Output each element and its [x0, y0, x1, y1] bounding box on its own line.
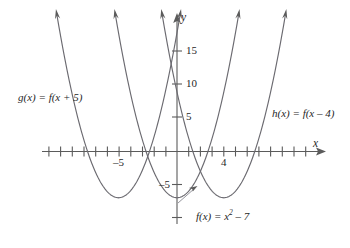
x-axis	[42, 147, 326, 157]
f-label-suffix: – 7	[233, 210, 250, 222]
graph-figure: –5 4 15 10 5 –5 x y g(x) = f(x + 5) h(x)…	[0, 0, 350, 248]
f-label-prefix: f(x) = x	[196, 210, 229, 222]
h-function-label: h(x) = f(x – 4)	[272, 108, 334, 119]
g-function-label: g(x) = f(x + 5)	[18, 92, 82, 103]
curve-f-right	[177, 9, 240, 198]
curve-g	[55, 9, 118, 198]
curve-g-right	[119, 9, 182, 198]
x-tick-label-4: 4	[221, 157, 227, 168]
y-axis	[172, 13, 182, 224]
y-tick-label-neg5: –5	[159, 179, 170, 190]
x-tick-label-neg5: –5	[113, 157, 124, 168]
y-tick-label-15: 15	[186, 45, 197, 56]
curve-h-right	[224, 9, 287, 198]
y-axis-label: y	[181, 12, 186, 24]
y-tick-label-10: 10	[186, 78, 197, 89]
coordinate-plane	[0, 0, 350, 248]
x-axis-label: x	[313, 138, 318, 150]
f-label-pointer	[178, 186, 198, 203]
curve-f	[114, 9, 177, 198]
y-tick-label-5: 5	[186, 111, 192, 122]
curve-h	[160, 9, 223, 198]
f-function-label: f(x) = x2 – 7	[196, 211, 249, 222]
